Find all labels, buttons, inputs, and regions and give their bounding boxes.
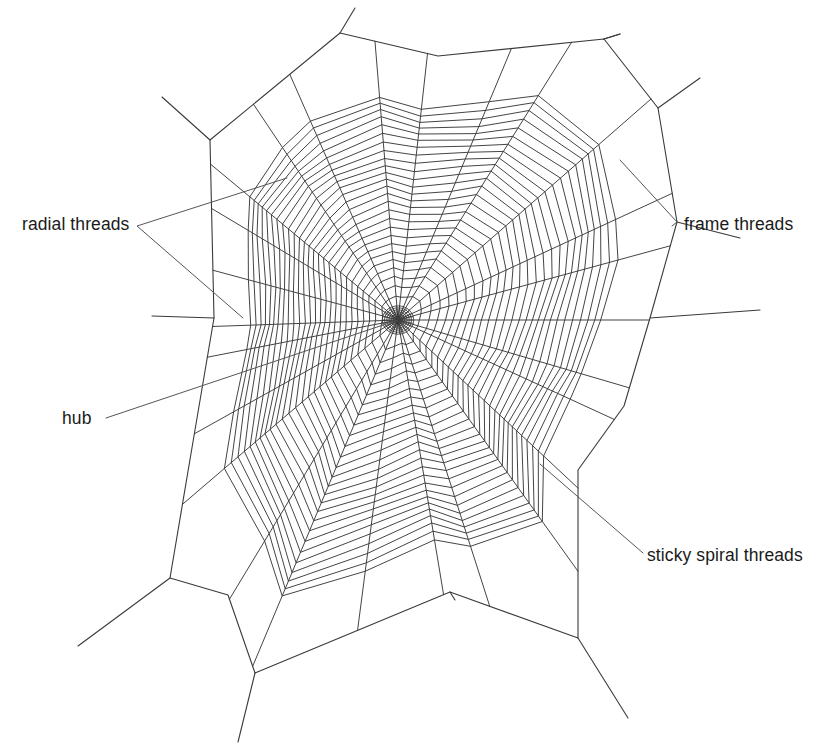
- radial-thread: [358, 320, 398, 630]
- label-sticky-spiral-threads: sticky spiral threads: [647, 547, 803, 565]
- diagram-canvas: radial threads frame threads hub sticky …: [0, 0, 821, 743]
- radial-thread: [290, 74, 398, 320]
- anchor-threads-group: [78, 8, 760, 742]
- sticky-spiral-threads-group: [224, 96, 618, 596]
- radial-thread: [375, 41, 398, 320]
- label-hub: hub: [62, 410, 92, 428]
- sticky-spiral-thread: [276, 165, 552, 512]
- anchor-thread: [604, 34, 620, 39]
- sticky-spiral-thread: [296, 186, 528, 486]
- radial-thread: [253, 320, 398, 666]
- label-radial-threads: radial threads: [22, 216, 129, 234]
- sticky-spiral-thread: [365, 276, 440, 374]
- sticky-spiral-thread: [331, 236, 483, 426]
- leader-hub: [106, 320, 398, 418]
- anchor-thread: [162, 97, 210, 140]
- radial-thread: [194, 320, 398, 434]
- anchor-thread: [650, 310, 760, 318]
- sticky-spiral-thread: [320, 218, 499, 446]
- radial-thread: [398, 320, 578, 571]
- anchor-thread: [152, 316, 214, 318]
- sticky-spiral-thread: [289, 178, 536, 494]
- radial-threads-group: [182, 41, 672, 666]
- anchor-thread: [658, 78, 700, 108]
- sticky-spiral-thread: [302, 193, 520, 477]
- sticky-spiral-thread: [351, 259, 458, 395]
- anchor-thread: [340, 8, 355, 33]
- spider-web-illustration: [0, 0, 821, 743]
- label-frame-threads: frame threads: [684, 216, 793, 234]
- anchor-thread: [238, 673, 255, 742]
- sticky-spiral-thread: [338, 243, 475, 415]
- anchor-thread: [578, 638, 628, 718]
- anchor-thread: [78, 578, 170, 646]
